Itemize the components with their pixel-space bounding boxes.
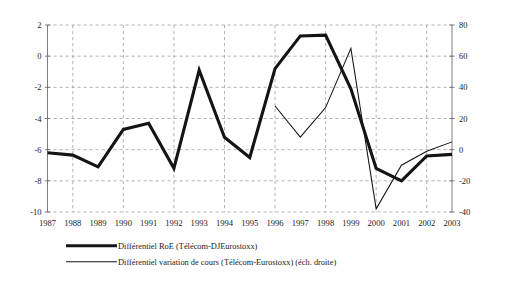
x-axis-tick-label: 1999 xyxy=(342,218,359,228)
x-axis-tick-label: 1987 xyxy=(39,218,57,228)
left-axis-tick-label: -8 xyxy=(34,176,41,186)
series-layer xyxy=(48,35,453,209)
x-axis-tick-label: 1988 xyxy=(64,218,81,228)
right-axis-tick-label: 80 xyxy=(459,20,468,30)
left-axis-tick-label: -4 xyxy=(34,114,42,124)
legend-label-2: Différentiel variation de cours (Télécom… xyxy=(118,258,336,267)
right-axis-tick-label: -20 xyxy=(459,176,470,186)
series-roe-differential xyxy=(48,35,453,181)
x-axis-tick-label: 1997 xyxy=(292,218,310,228)
left-axis-tick-label: -2 xyxy=(34,82,41,92)
x-axis-tick-label: 1994 xyxy=(216,218,234,228)
x-axis-tick-label: 1990 xyxy=(115,218,132,228)
left-axis-tick-label: 2 xyxy=(37,20,41,30)
right-axis-tick-label: 40 xyxy=(459,82,468,92)
x-axis-tick-label: 1995 xyxy=(241,218,258,228)
x-axis-tick-labels: 1987198819891990199119921993199419951996… xyxy=(39,218,461,228)
x-axis-tick-label: 2001 xyxy=(393,218,410,228)
grid-layer xyxy=(48,25,453,212)
x-axis-tick-label: 1991 xyxy=(140,218,157,228)
x-axis-tick-label: 1989 xyxy=(89,218,106,228)
left-axis-tick-labels: -10-8-6-4-202 xyxy=(30,20,42,217)
left-axis-tick-label: 0 xyxy=(37,51,41,61)
x-axis-tick-label: 2002 xyxy=(418,218,435,228)
x-axis-tick-label: 1996 xyxy=(266,218,284,228)
legend-label-1: Différentiel RoE (Télécom-DJEurostoxx) xyxy=(118,242,258,251)
line-chart-svg: -10-8-6-4-202 -40-20020406080 1987198819… xyxy=(0,0,511,289)
chart-figure: -10-8-6-4-202 -40-20020406080 1987198819… xyxy=(0,0,511,289)
axes-layer xyxy=(45,25,455,212)
right-axis-tick-label: 60 xyxy=(459,51,468,61)
left-axis-tick-label: -6 xyxy=(34,145,41,155)
x-axis-tick-label: 1998 xyxy=(317,218,334,228)
right-axis-tick-label: -40 xyxy=(459,207,470,217)
left-axis-tick-label: -10 xyxy=(30,207,41,217)
chart-legend: Différentiel RoE (Télécom-DJEurostoxx)Di… xyxy=(66,242,336,267)
right-axis-tick-label: 20 xyxy=(459,114,468,124)
x-axis-tick-label: 1992 xyxy=(165,218,182,228)
x-axis-tick-label: 1993 xyxy=(191,218,208,228)
x-axis-tick-label: 2003 xyxy=(443,218,460,228)
series-price-variation-differential xyxy=(275,48,452,209)
right-axis-tick-labels: -40-20020406080 xyxy=(459,20,470,217)
x-axis-tick-label: 2000 xyxy=(368,218,385,228)
right-axis-tick-label: 0 xyxy=(459,145,463,155)
